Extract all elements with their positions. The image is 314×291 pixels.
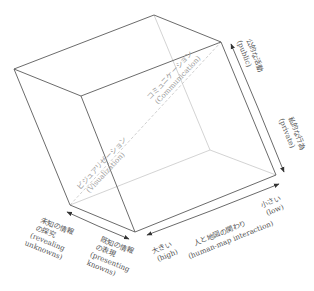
visualization-ja: ビジュアリゼーション bbox=[75, 135, 129, 192]
public-label: 公的な活動 (public) bbox=[235, 36, 266, 77]
cartography-cube-diagram: ビジュアリゼーション (Visualization) コミュニケーション (Co… bbox=[0, 0, 314, 291]
presenting-knowns-label: 既知の情報 の表現 (presenting knowns) bbox=[85, 233, 138, 282]
knowledge-axis-arrow bbox=[67, 212, 98, 226]
revealing-unknowns-label: 未知の情報 の探究 (revealing unknowns) bbox=[24, 213, 76, 262]
communication-label: コミュニケーション (Communication) bbox=[145, 47, 203, 107]
low-label: 小さい (low) bbox=[259, 194, 285, 219]
private-label: 私的な行為 (private) bbox=[277, 114, 308, 155]
high-label: 大きい (high) bbox=[150, 239, 179, 265]
interaction-title: 人と地図の関わり (human-map interaction) bbox=[183, 209, 275, 261]
